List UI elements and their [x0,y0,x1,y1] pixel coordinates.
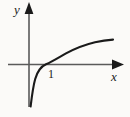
x-axis-label: x [111,70,117,83]
y-axis-label: y [14,3,20,16]
x-axis-arrowhead [112,60,124,70]
log-curve-path [31,40,113,107]
y-axis-arrowhead [25,2,34,14]
graph-canvas [0,0,130,117]
x-intercept-tick-label: 1 [48,68,54,80]
logarithmic-curve-figure: y x 1 [0,0,130,117]
